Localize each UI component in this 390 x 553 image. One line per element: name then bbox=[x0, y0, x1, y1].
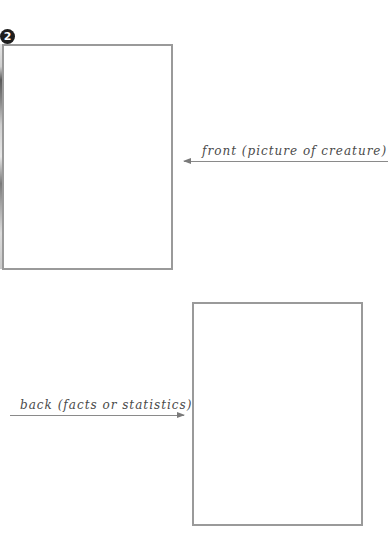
card-back-outline bbox=[192, 302, 363, 526]
back-arrow bbox=[10, 415, 184, 416]
card-front-outline bbox=[2, 44, 173, 270]
arrow-right-icon bbox=[177, 412, 185, 418]
step-badge: 2 bbox=[0, 29, 15, 44]
front-label-text: front (picture of creature) bbox=[184, 144, 388, 158]
step-number: 2 bbox=[4, 30, 12, 43]
back-label-text: back (facts or statistics) bbox=[10, 398, 184, 412]
front-label-annotation: front (picture of creature) bbox=[184, 144, 388, 162]
front-arrow bbox=[184, 161, 388, 162]
back-label-annotation: back (facts or statistics) bbox=[10, 398, 184, 416]
arrow-left-icon bbox=[183, 158, 191, 164]
